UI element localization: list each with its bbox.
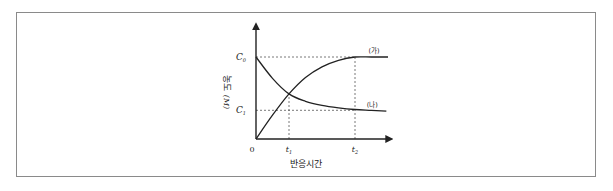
- concentration-time-chart: (가)(나) 0t1t2C0C1 반응시간 농도 (M): [0, 0, 613, 191]
- series-label-ga: (가): [368, 46, 379, 55]
- series-line-ga: [256, 57, 388, 139]
- x-tick-label: t2: [352, 145, 358, 155]
- y-tick-label: C1: [236, 105, 246, 116]
- x-tick-label: 0: [249, 145, 254, 154]
- y-axis-label-unit: (M): [222, 95, 231, 109]
- x-axis-label: 반응시간: [290, 159, 322, 169]
- y-axis-label: 농도 (M): [222, 75, 232, 109]
- x-tick-label: t1: [286, 145, 292, 155]
- y-tick-label: C0: [236, 52, 247, 63]
- series-label-na: (나): [367, 100, 378, 109]
- y-axis-label-text: 농도: [222, 75, 232, 91]
